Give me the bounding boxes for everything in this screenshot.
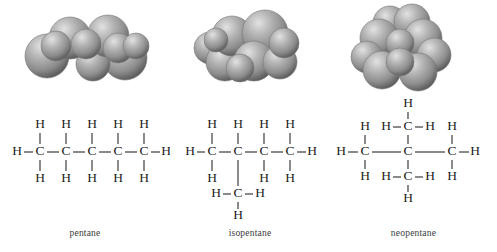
hydrogen-atom-label: H [161, 143, 170, 158]
hydrogen-atom-label: H [470, 143, 480, 158]
hydrogen-atom-label: H [336, 143, 346, 158]
atom-group: CCCCCHHHHHHHHHHHH [12, 116, 170, 185]
hydrogen-atom-label: H [12, 143, 22, 158]
model-spheres-neopentane [351, 4, 451, 91]
caption-pentane: pentane [0, 228, 170, 238]
hydrogen-atom-label: H [425, 168, 435, 183]
hydrogen-atom-label: H [447, 118, 457, 133]
model-spheres-isopentane [194, 10, 299, 82]
hydrogen-atom-label: H [185, 143, 195, 158]
atom-group: CCCCCHHHHHHHHHHHH [185, 116, 317, 222]
hydrogen-atom-label: H [87, 116, 97, 131]
structural-formula-isopentane: CCCCCHHHHHHHHHHHH [170, 95, 330, 230]
hydrogen-atom-label: H [285, 116, 295, 131]
hydrogen-atom-label: H [233, 116, 243, 131]
carbon-atom-label: C [233, 143, 242, 158]
carbon-atom-label: C [87, 143, 96, 158]
panel-isopentane: CCCCCHHHHHHHHHHHH isopentane [170, 0, 330, 252]
space-filling-model-pentane [0, 0, 170, 100]
figure-stage: CCCCCHHHHHHHHHHHH pentane [0, 0, 497, 252]
hydrogen-atom-label: H [259, 116, 269, 131]
carbon-atom-label: C [403, 143, 412, 158]
hydrogen-atom-label: H [255, 185, 265, 200]
hydrogen-atom-label: H [403, 190, 413, 205]
hydrogen-atom-label: H [259, 170, 269, 185]
hydrogen-atom-label: H [447, 168, 457, 183]
hydrogen-atom-label: H [360, 168, 370, 183]
caption-neopentane: neopentane [330, 228, 497, 238]
hydrogen-atom-label: H [61, 170, 71, 185]
carbon-atom-label: C [360, 143, 369, 158]
hydrogen-atom-label: H [211, 185, 221, 200]
space-filling-model-isopentane [170, 0, 330, 100]
hydrogen-atom-label: H [403, 95, 413, 110]
panel-pentane: CCCCCHHHHHHHHHHHH pentane [0, 0, 170, 252]
hydrogen-atom-label: H [207, 116, 217, 131]
carbon-atom-label: C [113, 143, 122, 158]
panel-neopentane: CCCCCHHHHHHHHHHHH neopentane [330, 0, 497, 252]
model-spheres-pentane [25, 15, 149, 81]
carbon-atom-label: C [207, 143, 216, 158]
hydrogen-atom-label: H [113, 116, 123, 131]
hydrogen-atom-label: H [233, 207, 243, 222]
caption-isopentane: isopentane [170, 228, 330, 238]
carbon-atom-label: C [139, 143, 148, 158]
hydrogen-atom-label: H [381, 168, 391, 183]
carbon-atom-label: C [403, 168, 412, 183]
hydrogen-atom-label: H [139, 170, 149, 185]
hydrogen-atom-label: H [61, 116, 71, 131]
hydrogen-atom-label: H [35, 116, 45, 131]
carbon-atom-label: C [259, 143, 268, 158]
structural-formula-pentane: CCCCCHHHHHHHHHHHH [0, 95, 170, 225]
hydrogen-atom-label: H [360, 118, 370, 133]
carbon-atom-label: C [233, 185, 242, 200]
hydrogen-atom-label: H [35, 170, 45, 185]
hydrogen-atom-label: H [307, 143, 317, 158]
carbon-atom-label: C [403, 118, 412, 133]
space-filling-model-neopentane [330, 0, 497, 100]
hydrogen-atom-label: H [285, 170, 295, 185]
carbon-atom-label: C [447, 143, 456, 158]
hydrogen-atom-label: H [381, 118, 391, 133]
hydrogen-atom-label: H [139, 116, 149, 131]
hydrogen-atom-label: H [113, 170, 123, 185]
hydrogen-atom-label: H [425, 118, 435, 133]
hydrogen-atom-label: H [207, 170, 217, 185]
carbon-atom-label: C [35, 143, 44, 158]
structural-formula-neopentane: CCCCCHHHHHHHHHHHH [330, 95, 497, 225]
carbon-atom-label: C [61, 143, 70, 158]
carbon-atom-label: C [285, 143, 294, 158]
hydrogen-atom-label: H [87, 170, 97, 185]
